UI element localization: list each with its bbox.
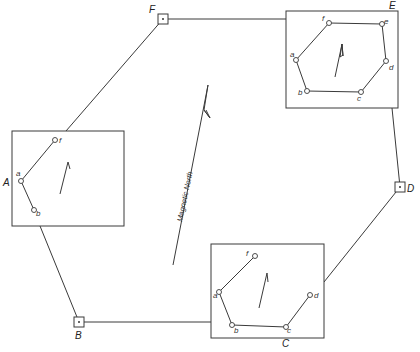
svg-text:a: a [290, 50, 295, 59]
station-label-C: C [282, 338, 290, 349]
svg-text:e: e [384, 17, 389, 26]
svg-text:b: b [36, 209, 41, 218]
svg-text:a: a [16, 169, 21, 178]
station-label-A: A [2, 177, 10, 188]
magnetic-north-label: Magnetic North [175, 171, 194, 223]
station-label-D: D [407, 183, 414, 194]
station-marker-D [395, 182, 405, 192]
station-label-B: B [75, 330, 82, 341]
svg-text:b: b [234, 326, 239, 335]
station-label-F: F [149, 4, 156, 15]
station-marker-B [74, 317, 84, 327]
detail-box-E: f e d c b a [286, 11, 398, 108]
svg-text:a: a [213, 291, 218, 300]
svg-text:d: d [389, 63, 394, 72]
svg-text:b: b [298, 88, 303, 97]
traverse-diagram: f e d c b a f a b f a b c d [0, 0, 420, 352]
station-marker-F [158, 14, 168, 24]
svg-text:c: c [357, 94, 361, 103]
svg-text:d: d [314, 291, 319, 300]
svg-text:c: c [287, 326, 291, 335]
station-label-E: E [389, 0, 396, 11]
detail-box-C: f a b c d [211, 244, 324, 338]
detail-box-A: f a b [12, 131, 124, 226]
